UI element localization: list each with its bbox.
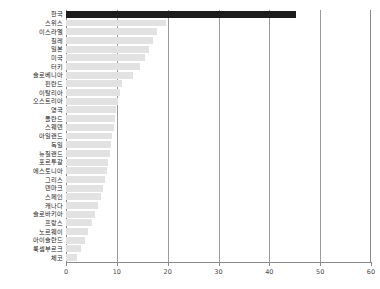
bar-row [66, 185, 371, 192]
bar [66, 115, 115, 122]
x-tick-label: 0 [64, 268, 68, 276]
y-axis-label: 프랑스 [45, 219, 63, 227]
x-tick-mark [219, 262, 220, 266]
bar-row [66, 193, 371, 200]
bar [66, 193, 101, 200]
bar-row [66, 167, 371, 174]
bar-row [66, 63, 371, 70]
bar [66, 245, 81, 252]
y-axis-label: 오스트리아 [33, 97, 63, 105]
bar [66, 54, 145, 61]
y-axis-label: 아일랜드 [39, 132, 63, 140]
x-tick-label: 60 [367, 268, 375, 276]
bar [66, 228, 88, 235]
bar-row [66, 159, 371, 166]
bar [66, 202, 98, 209]
bar-row [66, 150, 371, 157]
bar [66, 20, 166, 27]
x-tick-label: 50 [316, 268, 324, 276]
bar-row [66, 20, 371, 27]
bar [66, 46, 149, 53]
bar [66, 167, 107, 174]
y-axis-label: 아이슬란드 [33, 236, 63, 244]
bar-row [66, 176, 371, 183]
bar-row [66, 211, 371, 218]
x-tick-mark [320, 262, 321, 266]
bar [66, 141, 111, 148]
y-axis-label: 한국 [51, 10, 63, 18]
bar-row [66, 37, 371, 44]
bar-row [66, 133, 371, 140]
bar [66, 176, 105, 183]
bar [66, 219, 92, 226]
bar-row [66, 254, 371, 261]
x-tick-label: 30 [214, 268, 222, 276]
bar [66, 28, 157, 35]
bar-row [66, 98, 371, 105]
bar-row [66, 237, 371, 244]
y-axis-label: 뉴질랜드 [39, 150, 63, 158]
bar-row [66, 228, 371, 235]
y-axis-label: 영국 [51, 106, 63, 114]
bar [66, 185, 103, 192]
x-tick-mark [117, 262, 118, 266]
bar-row [66, 54, 371, 61]
y-axis-label: 일본 [51, 45, 63, 53]
bar [66, 72, 133, 79]
x-tick-mark [269, 262, 270, 266]
x-tick-mark [371, 262, 372, 266]
x-tick-label: 20 [164, 268, 172, 276]
bar [66, 124, 114, 131]
bar-row [66, 115, 371, 122]
bar-row [66, 141, 371, 148]
bar [66, 211, 95, 218]
y-axis-label: 이탈리아 [39, 89, 63, 97]
bar [66, 106, 116, 113]
y-axis-label: 독일 [51, 141, 63, 149]
bar-row [66, 89, 371, 96]
y-axis-label: 스웨덴 [45, 123, 63, 131]
y-axis-label: 스페인 [45, 193, 63, 201]
y-axis-label: 체코 [51, 254, 63, 262]
bar [66, 63, 140, 70]
bar-row [66, 11, 371, 18]
bar [66, 159, 108, 166]
bar-row [66, 245, 371, 252]
x-tick-label: 10 [113, 268, 121, 276]
y-axis-label: 이스라엘 [39, 28, 63, 36]
bar [66, 37, 153, 44]
bar-row [66, 124, 371, 131]
bar [66, 150, 110, 157]
y-axis-label: 덴마크 [45, 184, 63, 192]
x-tick-mark [66, 262, 67, 266]
bar-row [66, 202, 371, 209]
bar-row [66, 80, 371, 87]
x-tick-label: 40 [265, 268, 273, 276]
y-axis-label: 핀란드 [45, 80, 63, 88]
bar-row [66, 28, 371, 35]
bar-row [66, 46, 371, 53]
bar [66, 11, 296, 18]
bar [66, 133, 112, 140]
y-axis-label: 슬로바키아 [33, 210, 63, 218]
y-axis-label: 에스토니아 [33, 167, 63, 175]
y-axis-label: 터키 [51, 63, 63, 71]
bar [66, 254, 77, 261]
bar-row [66, 106, 371, 113]
x-tick-mark [168, 262, 169, 266]
y-axis-label: 칠레 [51, 37, 63, 45]
bar [66, 80, 122, 87]
y-axis-label: 포르투갈 [39, 158, 63, 166]
bar [66, 237, 85, 244]
bar-row [66, 219, 371, 226]
y-axis-label: 폴란드 [45, 115, 63, 123]
bar-row [66, 72, 371, 79]
bar [66, 98, 118, 105]
bar-chart: 0102030405060 한국스위스이스라엘칠레일본미국터키슬로베니아핀란드이… [0, 0, 380, 289]
bar [66, 89, 120, 96]
y-axis-label: 노르웨이 [39, 228, 63, 236]
y-axis-label: 스위스 [45, 19, 63, 27]
y-axis-label: 룩셈부르크 [33, 245, 63, 253]
y-axis-label: 그리스 [45, 176, 63, 184]
y-axis-label: 슬로베니아 [33, 71, 63, 79]
